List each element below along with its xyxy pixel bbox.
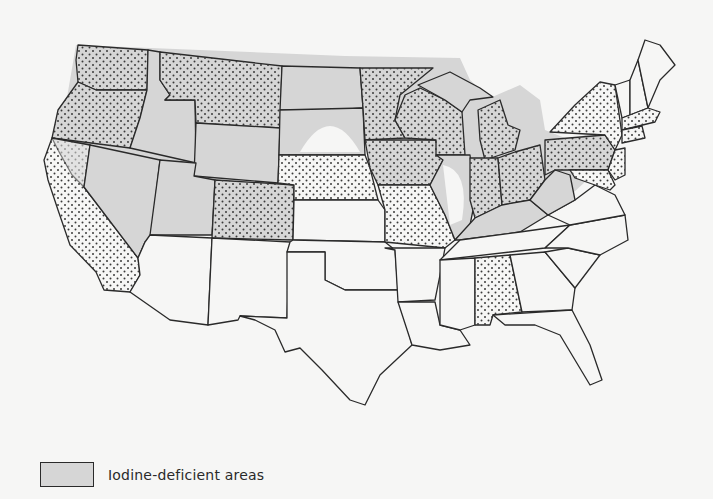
us-map (0, 0, 713, 499)
state-arizona (130, 235, 212, 325)
state-kansas (293, 200, 385, 242)
legend-label: Iodine-deficient areas (108, 467, 264, 483)
state-wyoming (194, 123, 280, 183)
state-north-dakota (280, 66, 363, 110)
legend: Iodine-deficient areas (40, 462, 264, 487)
state-new-mexico (208, 238, 290, 325)
state-florida (493, 310, 602, 385)
state-mississippi (440, 258, 475, 330)
legend-swatch-deficient (40, 462, 94, 487)
